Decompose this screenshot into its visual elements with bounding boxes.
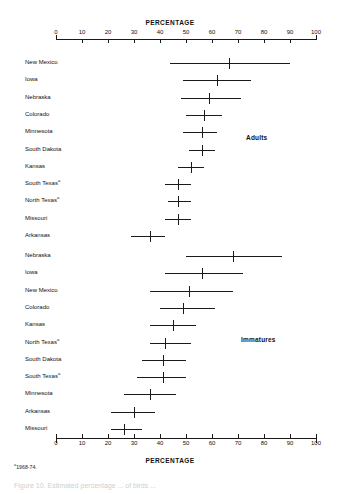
plot-row: Iowa <box>0 74 340 86</box>
row-label: Arkansas <box>25 408 50 414</box>
axis-line <box>56 438 316 439</box>
row-label: Nebraska <box>25 94 51 100</box>
confidence-interval-line <box>160 308 215 309</box>
confidence-interval-line <box>137 377 186 378</box>
row-label: New Mexico <box>25 59 58 65</box>
confidence-interval-line <box>168 201 191 202</box>
axis-tick <box>186 39 187 43</box>
axis-tick <box>82 39 83 43</box>
axis-tick-label: 40 <box>150 29 170 36</box>
plot-row: New Mexico <box>0 285 340 297</box>
group-label-adults: Adults <box>246 134 267 141</box>
confidence-interval-line <box>111 412 155 413</box>
plot-row: Iowa <box>0 267 340 279</box>
plot-row: Kansas <box>0 161 340 173</box>
plot-row: Nebraska <box>0 250 340 262</box>
row-label-footnote-marker: a <box>58 371 60 376</box>
figure-caption-partial: Figure 10. Estimated percentage ... of b… <box>14 482 314 490</box>
axis-tick <box>82 434 83 438</box>
plot-row: North Texasa <box>0 337 340 349</box>
plot-row: South Dakota <box>0 354 340 366</box>
point-estimate-marker <box>229 58 230 69</box>
point-estimate-marker <box>150 389 151 400</box>
axis-tick-label: 20 <box>98 29 118 36</box>
footnote-text: 1968-74. <box>16 464 36 470</box>
plot-row: New Mexico <box>0 57 340 69</box>
plot-row: Minnesota <box>0 126 340 138</box>
confidence-interval-line <box>170 63 290 64</box>
row-label: New Mexico <box>25 287 58 293</box>
point-estimate-marker <box>178 196 179 207</box>
point-estimate-marker <box>150 231 151 242</box>
row-label: Minnesota <box>25 128 53 134</box>
axis-tick <box>134 434 135 438</box>
point-estimate-marker <box>209 93 210 104</box>
row-label: Kansas <box>25 321 45 327</box>
point-estimate-marker <box>233 251 234 262</box>
axis-tick-label: 60 <box>202 440 222 447</box>
axis-tick <box>160 39 161 43</box>
confidence-interval-line <box>131 236 165 237</box>
plot-row: South Texasa <box>0 371 340 383</box>
row-label: South Dakota <box>25 356 61 362</box>
plot-row: Minnesota <box>0 388 340 400</box>
point-estimate-marker <box>173 320 174 331</box>
plot-row: Kansas <box>0 319 340 331</box>
axis-tick-label: 80 <box>254 29 274 36</box>
axis-tick <box>264 39 265 43</box>
point-estimate-marker <box>202 268 203 279</box>
x-axis-bottom: 0102030405060708090100 <box>0 432 340 448</box>
plot-row: Missouri <box>0 213 340 225</box>
axis-title-top: PERCENTAGE <box>0 19 340 26</box>
point-estimate-marker <box>163 372 164 383</box>
row-label: Iowa <box>25 76 38 82</box>
x-axis-top: 0102030405060708090100 <box>0 29 340 45</box>
axis-tick <box>212 434 213 438</box>
axis-tick <box>160 434 161 438</box>
point-estimate-marker <box>165 338 166 349</box>
row-label: Nebraska <box>25 252 51 258</box>
point-estimate-marker <box>178 179 179 190</box>
confidence-interval-line <box>150 291 233 292</box>
row-label: Colorado <box>25 111 49 117</box>
row-label: Missouri <box>25 425 47 431</box>
row-label: South Texasa <box>25 373 60 379</box>
axis-tick <box>264 434 265 438</box>
point-estimate-marker <box>189 286 190 297</box>
axis-tick <box>134 39 135 43</box>
row-label: Iowa <box>25 269 38 275</box>
axis-tick-label: 90 <box>280 29 300 36</box>
plot-row: Colorado <box>0 109 340 121</box>
row-label-footnote-marker: a <box>58 178 60 183</box>
point-estimate-marker <box>191 162 192 173</box>
point-estimate-marker <box>204 110 205 121</box>
group-label-immatures: Immatures <box>241 336 276 343</box>
confidence-interval-line <box>183 132 217 133</box>
axis-tick-label: 10 <box>72 440 92 447</box>
confidence-interval-line <box>111 429 142 430</box>
row-label: South Texasa <box>25 180 60 186</box>
point-estimate-marker <box>163 355 164 366</box>
confidence-interval-line <box>181 98 241 99</box>
plot-row: South Texasa <box>0 178 340 190</box>
axis-tick <box>108 434 109 438</box>
axis-tick <box>238 434 239 438</box>
confidence-interval-line <box>165 273 243 274</box>
axis-tick-label: 40 <box>150 440 170 447</box>
axis-tick <box>186 434 187 438</box>
row-label: Missouri <box>25 215 47 221</box>
axis-tick-label: 30 <box>124 29 144 36</box>
forest-plot-figure: PERCENTAGE 0102030405060708090100 New Me… <box>0 0 340 494</box>
footnote: a1968-74. <box>14 464 37 470</box>
point-estimate-marker <box>202 127 203 138</box>
axis-tick <box>212 39 213 43</box>
plot-row: North Texasa <box>0 195 340 207</box>
plot-row: South Dakota <box>0 144 340 156</box>
row-label: North Texasa <box>25 197 59 203</box>
axis-title-bottom: PERCENTAGE <box>0 457 340 464</box>
row-label: Arkansas <box>25 232 50 238</box>
plot-row: Nebraska <box>0 92 340 104</box>
axis-tick <box>290 434 291 438</box>
row-label-footnote-marker: a <box>57 337 59 342</box>
axis-tick-label: 60 <box>202 29 222 36</box>
